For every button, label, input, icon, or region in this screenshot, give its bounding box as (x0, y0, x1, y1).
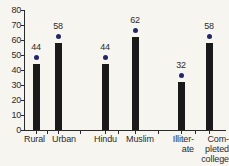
y-tick-50 (21, 55, 24, 56)
y-axis-label-80: 80 (2, 6, 21, 15)
y-axis-label-70: 70 (2, 21, 21, 30)
y-tick-30 (21, 85, 24, 86)
value-label-rural: 44 (26, 43, 46, 52)
y-tick-80 (21, 10, 24, 11)
bar-urban (55, 43, 62, 130)
y-axis-label-20: 20 (2, 96, 21, 105)
dot-marker-rural (34, 55, 39, 60)
bar-completed-college (206, 43, 213, 130)
y-tick-40 (21, 70, 24, 71)
value-label-completed-college: 58 (199, 22, 219, 31)
bar-muslim (132, 37, 139, 130)
dot-marker-illiterate (179, 73, 184, 78)
x-axis-label-rural: Rural (24, 134, 52, 144)
value-label-illiterate: 32 (171, 61, 191, 70)
bar-chart: 80 70 60 50 40 30 20 10 0 44 58 44 62 32… (0, 0, 229, 166)
bar-illiterate (178, 82, 185, 130)
y-axis-labels: 80 70 60 50 40 30 20 10 0 (0, 0, 21, 166)
y-axis-line (24, 10, 25, 131)
x-axis-label-urban: Urban (52, 134, 82, 144)
y-axis-label-0: 0 (2, 126, 21, 135)
y-axis-label-40: 40 (2, 66, 21, 75)
y-tick-70 (21, 25, 24, 26)
dot-marker-urban (56, 34, 61, 39)
x-axis-label-muslim: Muslim (126, 134, 159, 144)
y-tick-10 (21, 115, 24, 116)
y-axis-label-60: 60 (2, 36, 21, 45)
y-tick-20 (21, 100, 24, 101)
y-tick-60 (21, 40, 24, 41)
y-axis-label-50: 50 (2, 51, 21, 60)
dot-marker-completed-college (207, 34, 212, 39)
x-axis-label-hindu: Hindu (94, 134, 124, 144)
bar-hindu (102, 64, 109, 130)
y-axis-label-30: 30 (2, 81, 21, 90)
value-label-muslim: 62 (125, 16, 145, 25)
y-axis-label-10: 10 (2, 111, 21, 120)
value-label-hindu: 44 (95, 43, 115, 52)
value-label-urban: 58 (48, 22, 68, 31)
dot-marker-muslim (133, 28, 138, 33)
y-tick-0 (21, 130, 24, 131)
bar-rural (33, 64, 40, 130)
x-axis-label-completed-college: Com- pleted college (192, 134, 229, 164)
dot-marker-hindu (103, 55, 108, 60)
x-axis-label-illiterate: Illiter- ate (164, 134, 194, 154)
